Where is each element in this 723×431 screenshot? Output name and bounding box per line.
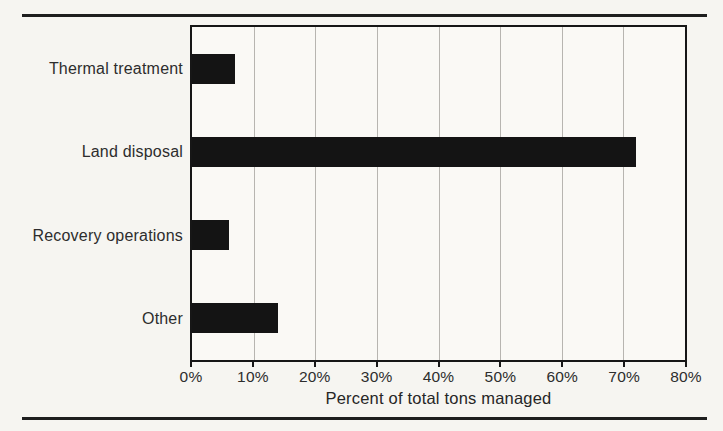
x-tick-label: 40% bbox=[407, 368, 471, 386]
gridline bbox=[315, 27, 316, 360]
gridline bbox=[439, 27, 440, 360]
gridline bbox=[377, 27, 378, 360]
x-tick-mark bbox=[376, 361, 378, 367]
top-rule bbox=[22, 14, 707, 17]
x-tick-mark bbox=[314, 361, 316, 367]
x-tick-label: 20% bbox=[283, 368, 347, 386]
x-tick-label: 80% bbox=[654, 368, 718, 386]
gridline bbox=[562, 27, 563, 360]
x-tick-label: 70% bbox=[592, 368, 656, 386]
document-page: Thermal treatmentLand disposalRecovery o… bbox=[0, 0, 723, 431]
bottom-rule bbox=[22, 417, 707, 420]
x-tick-label: 0% bbox=[159, 368, 223, 386]
bar-other bbox=[192, 303, 278, 333]
x-tick-mark bbox=[623, 361, 625, 367]
x-tick-label: 10% bbox=[221, 368, 285, 386]
x-tick-label: 60% bbox=[530, 368, 594, 386]
category-label: Thermal treatment bbox=[0, 58, 183, 79]
category-label: Other bbox=[0, 308, 183, 329]
x-tick-label: 30% bbox=[345, 368, 409, 386]
gridline bbox=[623, 27, 624, 360]
x-tick-mark bbox=[438, 361, 440, 367]
category-label: Land disposal bbox=[0, 141, 183, 162]
x-tick-mark bbox=[685, 361, 687, 367]
x-tick-mark bbox=[561, 361, 563, 367]
category-label: Recovery operations bbox=[0, 225, 183, 246]
x-tick-mark bbox=[499, 361, 501, 367]
bar-land-disposal bbox=[192, 137, 636, 167]
bar-thermal-treatment bbox=[192, 54, 235, 84]
x-axis-title: Percent of total tons managed bbox=[190, 389, 687, 408]
x-tick-mark bbox=[252, 361, 254, 367]
plot-area bbox=[190, 25, 687, 362]
x-tick-label: 50% bbox=[468, 368, 532, 386]
gridline bbox=[500, 27, 501, 360]
x-tick-mark bbox=[190, 361, 192, 367]
bar-recovery-operations bbox=[192, 220, 229, 250]
